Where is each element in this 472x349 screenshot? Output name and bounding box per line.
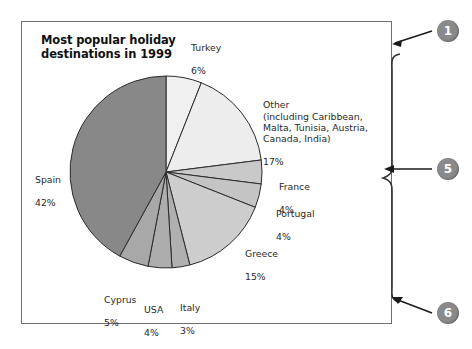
- pie-label-portugal-name: Portugal: [276, 208, 315, 219]
- pie-label-greece-value: 15%: [245, 271, 266, 282]
- pie-label-other: Other (including Caribbean, Malta, Tunis…: [263, 88, 368, 167]
- pie-chart: [68, 74, 264, 270]
- leader-line-6: [398, 300, 432, 313]
- pie-label-turkey-value: 6%: [191, 65, 206, 76]
- pie-label-portugal: Portugal 4%: [276, 197, 315, 242]
- pie-label-other-name: Other (including Caribbean, Malta, Tunis…: [263, 99, 368, 144]
- pie-label-usa: USA 4%: [144, 293, 163, 338]
- callout-marker-1[interactable]: 1: [437, 20, 459, 42]
- pie-label-cyprus-name: Cyprus: [104, 294, 136, 305]
- pie-label-greece: Greece 15%: [245, 237, 278, 282]
- pie-label-turkey-name: Turkey: [191, 42, 221, 53]
- callout-marker-6[interactable]: 6: [437, 302, 459, 324]
- pie-label-greece-name: Greece: [245, 248, 278, 259]
- pie-chart-svg: [68, 74, 264, 270]
- figure-root: Most popular holiday destinations in 199…: [0, 0, 472, 349]
- pie-label-cyprus: Cyprus 5%: [104, 283, 136, 328]
- pie-label-spain-value: 42%: [35, 197, 56, 208]
- pie-label-italy-name: Italy: [180, 302, 200, 313]
- pie-label-turkey: Turkey 6%: [191, 31, 221, 76]
- pie-label-spain: Spain 42%: [35, 163, 61, 208]
- pie-label-france-name: France: [279, 181, 310, 192]
- leader-line-1: [395, 31, 432, 43]
- callout-marker-5[interactable]: 5: [437, 158, 459, 180]
- pie-label-italy-value: 3%: [180, 325, 195, 336]
- pie-label-italy: Italy 3%: [180, 291, 200, 336]
- pie-label-portugal-value: 4%: [276, 231, 291, 242]
- pie-label-other-value: 17%: [263, 156, 284, 167]
- pie-label-usa-value: 4%: [144, 327, 159, 338]
- arrowhead-6-icon: [392, 297, 403, 304]
- arrowhead-1-icon: [392, 40, 402, 47]
- pie-label-spain-name: Spain: [35, 174, 61, 185]
- pie-label-cyprus-value: 5%: [104, 317, 119, 328]
- pie-label-usa-name: USA: [144, 304, 163, 315]
